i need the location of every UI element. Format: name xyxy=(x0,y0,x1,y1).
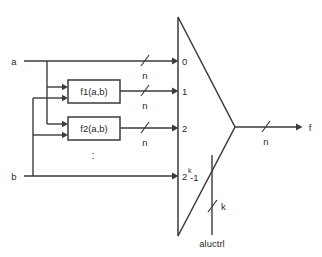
mux-port-label-0: 0 xyxy=(182,56,187,67)
mux-port-label-1: 1 xyxy=(182,86,187,97)
bus-width-label-f1: n xyxy=(142,100,147,111)
arrowhead-output xyxy=(296,124,303,131)
output-label-f: f xyxy=(309,122,312,133)
mux-port-label-2: 2 xyxy=(182,123,187,134)
bus-width-label-f2: n xyxy=(142,137,147,148)
aluctrl-label: aluctrl xyxy=(199,238,224,249)
wire-b-to-port-last xyxy=(24,173,179,180)
input-label-b: b xyxy=(11,171,16,182)
bus-width-label-a: n xyxy=(142,70,147,81)
alu-mux-block-diagram: a b f1(a,b) f2(a,b) : n n n n 0 1 2 2 k … xyxy=(0,0,322,257)
vertical-ellipsis: : xyxy=(91,149,94,161)
input-label-a: a xyxy=(11,56,17,67)
f2-label: f2(a,b) xyxy=(80,123,107,134)
arrowhead-f2-input-a xyxy=(62,121,68,127)
wire-a-fanout xyxy=(47,61,68,127)
arrowhead-f1-input-a xyxy=(62,84,68,90)
mux-port-last-base: 2 xyxy=(182,171,187,182)
mux-port-last-suffix: -1 xyxy=(190,172,198,183)
control-width-label: k xyxy=(221,201,226,212)
arrowhead-f1-input-b xyxy=(62,95,68,101)
wire-b-fanout xyxy=(33,95,68,176)
wire-output-f xyxy=(235,121,303,132)
diagram-canvas: a b f1(a,b) f2(a,b) : n n n n 0 1 2 2 k … xyxy=(0,0,322,257)
f1-label: f1(a,b) xyxy=(80,86,107,97)
bus-width-label-output: n xyxy=(263,136,268,147)
arrowhead-f2-input-b xyxy=(62,132,68,138)
